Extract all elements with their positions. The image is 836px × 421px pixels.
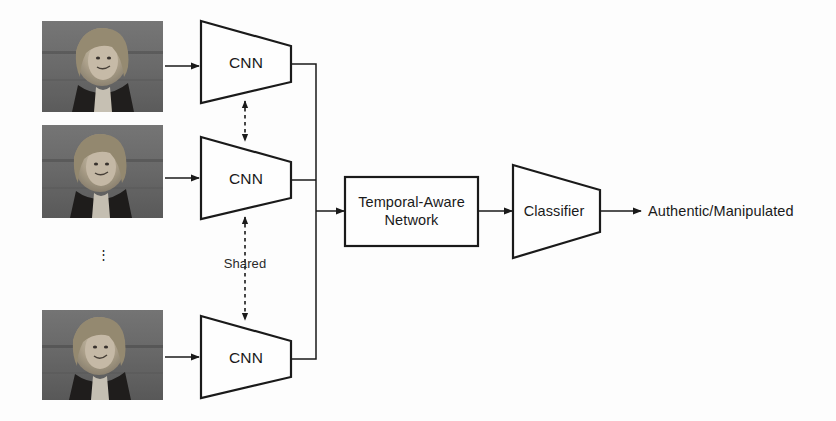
classifier-label: Classifier	[513, 203, 595, 220]
bus-line-from-cnn1	[291, 64, 316, 211]
cnn-block-1-label: CNN	[211, 54, 281, 71]
cnn-block-n-label: CNN	[211, 349, 281, 366]
shared-weights-label: Shared	[206, 255, 284, 272]
figure-canvas: ⋮	[0, 0, 836, 421]
temporal-network-label: Temporal-Aware Network	[347, 193, 476, 229]
cnn-block-2-label: CNN	[211, 170, 281, 187]
bus-line-from-cnnn	[291, 211, 316, 359]
output-label: Authentic/Manipulated	[648, 203, 828, 220]
